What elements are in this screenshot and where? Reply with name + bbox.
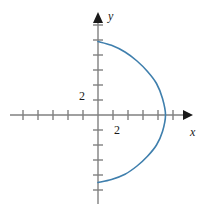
graph-figure: y x 2 2 <box>0 0 215 214</box>
plotted-curve <box>98 42 166 183</box>
x-axis-arrowhead <box>183 110 193 120</box>
y-axis-tick-label-2: 2 <box>79 90 85 102</box>
x-axis-label: x <box>190 126 195 138</box>
x-axis-tick-label-2: 2 <box>114 124 120 136</box>
y-axis-arrowhead <box>93 12 103 23</box>
coordinate-plane-svg <box>0 0 215 214</box>
y-axis-label: y <box>108 10 113 22</box>
